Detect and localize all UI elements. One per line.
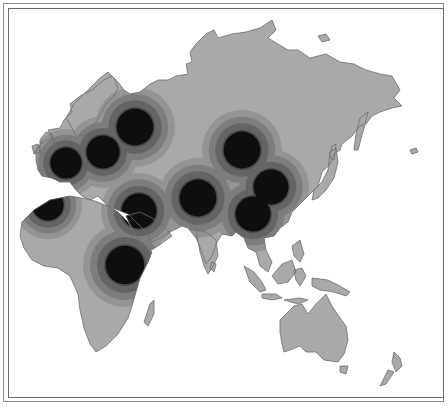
hotspot-north-africa-west-ring-5 bbox=[32, 189, 63, 220]
world-map bbox=[0, 0, 448, 411]
hotspot-central-europe-ring-5 bbox=[86, 135, 119, 168]
hotspot-middle-east-ring-5 bbox=[122, 194, 157, 229]
hotspot-south-china-ring-5 bbox=[236, 197, 271, 232]
density-hotspots bbox=[14, 87, 309, 307]
hotspot-mongolia-north-china-ring-5 bbox=[224, 132, 261, 169]
hotspot-western-europe-ring-5 bbox=[50, 147, 81, 178]
hotspot-east-africa-ring-5 bbox=[106, 246, 145, 285]
hotspot-western-russia-ring-5 bbox=[117, 109, 154, 146]
hotspot-central-asia-ring-5 bbox=[180, 180, 217, 217]
